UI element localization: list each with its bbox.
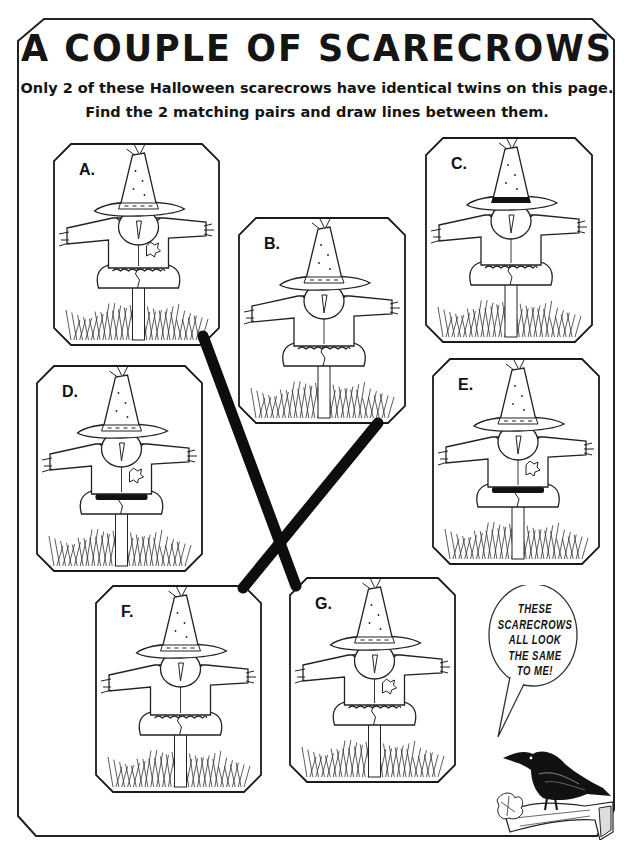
panel-label: C. xyxy=(451,155,467,173)
panel-label: G. xyxy=(315,595,332,613)
panel-label: B. xyxy=(264,235,280,253)
instructions-line-2: Find the 2 matching pairs and draw lines… xyxy=(0,104,634,120)
panel-label: D. xyxy=(62,383,78,401)
scarecrow-panel-d[interactable]: D. xyxy=(36,365,203,572)
scarecrow-panel-g[interactable]: G. xyxy=(289,577,456,783)
bubble-line: TO ME! xyxy=(492,661,578,680)
panel-label: F. xyxy=(121,603,133,621)
panel-label: E. xyxy=(458,376,473,394)
scarecrow-panel-c[interactable]: C. xyxy=(425,137,593,343)
instructions-line-1: Only 2 of these Halloween scarecrows hav… xyxy=(0,80,634,96)
scarecrow-panel-f[interactable]: F. xyxy=(95,585,262,793)
crow-on-branch-illustration xyxy=(495,740,620,840)
puzzle-page: A COUPLE OF SCARECROWS Only 2 of these H… xyxy=(0,0,634,866)
panel-label: A. xyxy=(79,161,95,179)
scarecrow-panel-b[interactable]: B. xyxy=(238,217,406,424)
speech-bubble-text: THESE SCARECROWS ALL LOOK THE SAME TO ME… xyxy=(492,601,578,679)
page-title: A COUPLE OF SCARECROWS xyxy=(0,27,634,69)
scarecrow-panel-e[interactable]: E. xyxy=(432,358,600,565)
scarecrow-panel-a[interactable]: A. xyxy=(53,143,220,346)
